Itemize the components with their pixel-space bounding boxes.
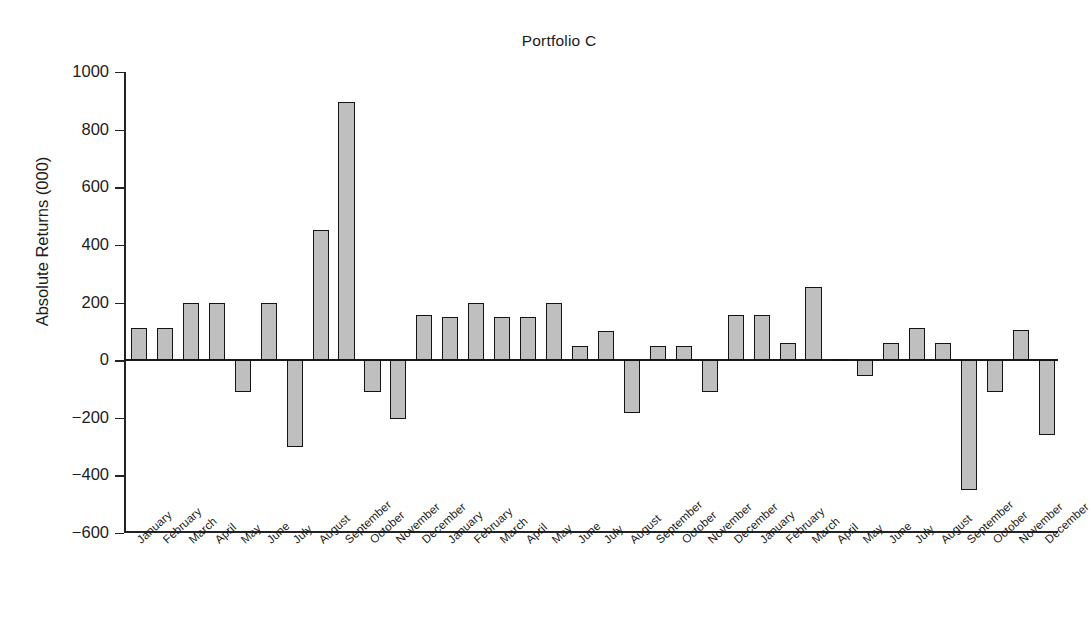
bar xyxy=(209,303,225,361)
bar xyxy=(702,360,718,392)
x-axis-labels: JanuaryFebruaryMarchAprilMayJuneJulyAugu… xyxy=(124,536,1058,624)
bar xyxy=(390,360,406,419)
y-axis-tick-label: −600 xyxy=(72,523,109,542)
y-axis-tick: 0 xyxy=(115,360,124,361)
bar xyxy=(364,360,380,392)
y-axis-tick: −400 xyxy=(115,475,124,476)
y-axis-tick: −200 xyxy=(115,418,124,419)
bar xyxy=(131,328,147,360)
bar xyxy=(468,303,484,361)
chart-title-text: Portfolio C xyxy=(522,32,597,50)
bar xyxy=(338,102,354,360)
bar xyxy=(183,303,199,361)
bar xyxy=(520,317,536,360)
bar xyxy=(287,360,303,446)
bar xyxy=(961,360,977,490)
bar xyxy=(676,346,692,360)
y-axis-tick-label: 800 xyxy=(81,120,109,139)
chart-title: Portfolio C xyxy=(0,32,1082,50)
bar xyxy=(883,343,899,360)
y-axis-tick: 200 xyxy=(115,303,124,304)
y-axis-tick: 400 xyxy=(115,245,124,246)
bar xyxy=(780,343,796,360)
bar xyxy=(261,303,277,361)
bar xyxy=(416,315,432,360)
y-axis-tick-label: 0 xyxy=(100,350,109,369)
bar xyxy=(831,359,847,361)
bar xyxy=(494,317,510,360)
y-axis-tick-label: 400 xyxy=(81,235,109,254)
y-axis-tick: 1000 xyxy=(115,72,124,73)
y-axis-tick: 600 xyxy=(115,187,124,188)
y-axis-tick-label: −400 xyxy=(72,465,109,484)
bar xyxy=(857,360,873,376)
y-axis-tick-label: 1000 xyxy=(72,62,109,81)
bar xyxy=(1013,330,1029,360)
y-axis-line xyxy=(124,72,126,533)
bar xyxy=(624,360,640,413)
bar xyxy=(598,331,614,360)
bar xyxy=(728,315,744,360)
y-axis-tick: −600 xyxy=(115,533,124,534)
bar xyxy=(1039,360,1055,435)
bar xyxy=(987,360,1003,392)
bar xyxy=(805,287,821,360)
bar xyxy=(313,230,329,360)
y-axis-tick-label: 200 xyxy=(81,293,109,312)
y-axis-tick-label: −200 xyxy=(72,408,109,427)
y-axis-tick-label: 600 xyxy=(81,177,109,196)
bar xyxy=(546,303,562,361)
bar xyxy=(909,328,925,360)
y-axis-tick: 800 xyxy=(115,130,124,131)
bar xyxy=(754,315,770,360)
bar xyxy=(572,346,588,360)
bar xyxy=(935,343,951,360)
y-axis-title: Absolute Returns (000) xyxy=(33,72,52,412)
bar xyxy=(442,317,458,360)
plot-area: 10008006004002000−200−400−600 xyxy=(124,72,1058,533)
bar xyxy=(157,328,173,360)
bar xyxy=(235,360,251,392)
bar xyxy=(650,346,666,360)
